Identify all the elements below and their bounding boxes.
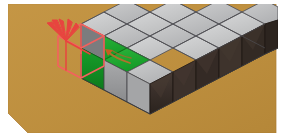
voxel-scene-stage: Isometric voxel grid with highlighted bl… (0, 0, 284, 137)
isometric-scene-canvas (0, 0, 284, 137)
